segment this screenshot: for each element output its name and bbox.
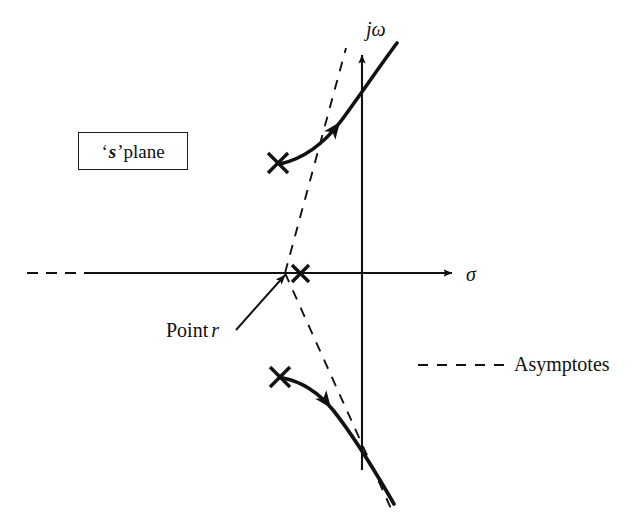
- axis-group: [27, 55, 452, 470]
- s-plane-box: ‘s’ plane: [78, 132, 188, 170]
- pole-marker-lower: [270, 367, 290, 387]
- locus-branch-lower: [283, 378, 394, 504]
- point-r-leader-line: [236, 275, 285, 330]
- real-axis-label: σ: [466, 264, 476, 284]
- point-r-symbol: r: [208, 319, 219, 341]
- s-plane-symbol: s: [108, 142, 117, 161]
- pole-markers-group: [268, 153, 309, 387]
- root-locus-figure: ‘s’ plane jω σ Pointr Asymptotes: [0, 0, 635, 515]
- point-r-label: Pointr: [166, 320, 219, 340]
- asymptotes-group: [285, 48, 393, 513]
- legend-asymptotes-label: Asymptotes: [514, 354, 610, 374]
- locus-branch-upper: [280, 43, 397, 164]
- s-plane-word: plane: [123, 142, 164, 161]
- diagram-canvas: [0, 0, 635, 515]
- imaginary-axis-label: jω: [366, 19, 386, 39]
- locus-direction-arrows: [315, 118, 345, 412]
- point-r-word: Point: [166, 319, 208, 341]
